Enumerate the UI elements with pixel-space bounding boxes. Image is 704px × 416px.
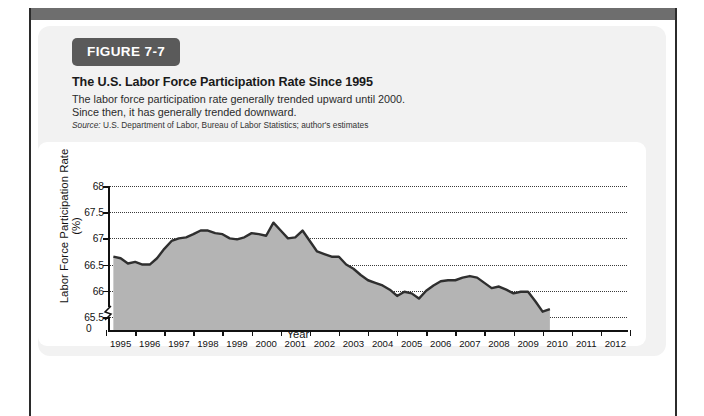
figure-subtitle: The labor force participation rate gener… <box>72 93 405 119</box>
x-tick-label: 2012 <box>605 338 626 349</box>
x-tick-mark <box>630 330 631 336</box>
figure-title: The U.S. Labor Force Participation Rate … <box>72 75 373 89</box>
page-top-bar <box>29 8 677 20</box>
x-tick-label: 2011 <box>576 338 597 349</box>
figure-source-prefix: Source: <box>72 120 101 130</box>
page-border-right <box>675 8 677 416</box>
x-tick-mark <box>601 330 602 336</box>
y-axis-line <box>108 186 110 307</box>
chart-plot-area: Labor Force Participation Rate (%) 65.56… <box>38 142 646 346</box>
textbook-page: FIGURE 7-7 The U.S. Labor Force Particip… <box>0 0 704 416</box>
figure-badge: FIGURE 7-7 <box>72 38 180 66</box>
chart-panel: Labor Force Participation Rate (%) 65.56… <box>38 142 646 346</box>
figure-subtitle-line-1: The labor force participation rate gener… <box>72 93 405 106</box>
figure-source-text: U.S. Department of Labor, Bureau of Labo… <box>103 120 368 130</box>
axis-break-icon <box>102 305 116 321</box>
figure-source: Source: U.S. Department of Labor, Bureau… <box>72 120 368 130</box>
page-border-left <box>29 8 31 416</box>
x-axis-label: Year <box>38 328 558 340</box>
figure-subtitle-line-2: Since then, it has generally trended dow… <box>72 106 405 119</box>
participation-rate-area-series <box>38 142 646 346</box>
x-tick-mark <box>572 330 573 336</box>
figure-card: FIGURE 7-7 The U.S. Labor Force Particip… <box>38 26 666 356</box>
